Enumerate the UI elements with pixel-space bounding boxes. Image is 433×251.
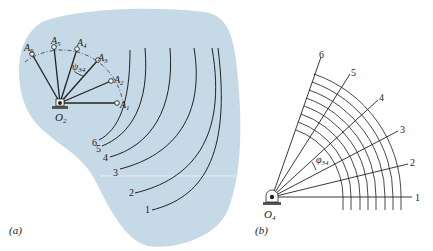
svg-text:3: 3 bbox=[400, 124, 405, 135]
svg-text:1: 1 bbox=[415, 192, 420, 203]
svg-text:6: 6 bbox=[92, 137, 97, 148]
pivot-o4-label: O4 bbox=[264, 208, 276, 222]
pivot-o2-pin bbox=[58, 101, 62, 105]
svg-text:5: 5 bbox=[351, 67, 356, 78]
svg-text:4: 4 bbox=[379, 92, 384, 103]
ray-labels: 1 2 3 4 5 6 bbox=[319, 49, 420, 203]
panel-a-caption: (a) bbox=[9, 224, 22, 237]
panel-b: 1 2 3 4 5 6 φ34 O4 (b) bbox=[255, 49, 420, 237]
svg-text:2: 2 bbox=[410, 157, 415, 168]
panel-a: ψ34 O2 A1 A2 A3 A4 A5 A6 1 2 3 4 bbox=[9, 9, 240, 247]
linkage-synthesis-diagram: ψ34 O2 A1 A2 A3 A4 A5 A6 1 2 3 4 bbox=[0, 0, 433, 251]
ground-o2 bbox=[52, 106, 68, 109]
pivot-o4-pin bbox=[270, 195, 274, 199]
svg-text:2: 2 bbox=[129, 187, 134, 198]
concentric-arcs bbox=[296, 74, 401, 210]
phi-angle-label: φ34 bbox=[316, 154, 329, 167]
ground-o4 bbox=[263, 202, 281, 205]
svg-text:4: 4 bbox=[103, 152, 108, 163]
svg-text:1: 1 bbox=[145, 204, 150, 215]
svg-text:6: 6 bbox=[319, 49, 324, 60]
panel-b-caption: (b) bbox=[255, 224, 268, 237]
svg-text:3: 3 bbox=[113, 167, 118, 178]
